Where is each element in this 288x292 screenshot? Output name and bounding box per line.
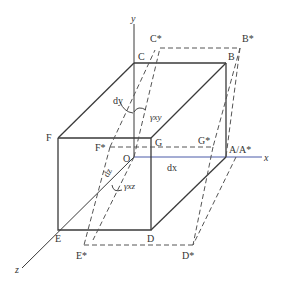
z-axis-label: z <box>14 264 19 275</box>
dy-label: dy <box>113 95 123 106</box>
vertex-a-astar: A/A* <box>229 144 251 155</box>
vertex-e: E <box>55 233 61 244</box>
vertex-c: C <box>138 51 145 62</box>
shear-strain-diagram: y x z C B F G O A/A* E D C* B* F* G* E* … <box>0 0 288 292</box>
vertex-b-star: B* <box>242 33 254 44</box>
vertex-e-star: E* <box>76 250 87 261</box>
vertex-g-star: G* <box>198 135 210 146</box>
vertex-o: O <box>123 153 130 164</box>
gamma-xy-arc <box>134 108 146 112</box>
vertex-f-star: F* <box>95 142 106 153</box>
vertex-d-star: D* <box>182 250 194 261</box>
y-axis-label: y <box>130 13 136 24</box>
gamma-xy-label: γxy <box>150 112 162 122</box>
vertex-g: G <box>155 137 162 148</box>
dx-label: dx <box>167 162 177 173</box>
vertex-d: D <box>147 233 154 244</box>
vertex-b: B <box>228 51 235 62</box>
dz-label: dz <box>101 166 114 178</box>
vertex-f: F <box>46 132 52 143</box>
x-axis-label: x <box>263 152 269 163</box>
gamma-xz-arc <box>112 185 122 191</box>
vertex-c-star: C* <box>150 33 162 44</box>
gamma-xz-label: γxz <box>124 181 136 191</box>
